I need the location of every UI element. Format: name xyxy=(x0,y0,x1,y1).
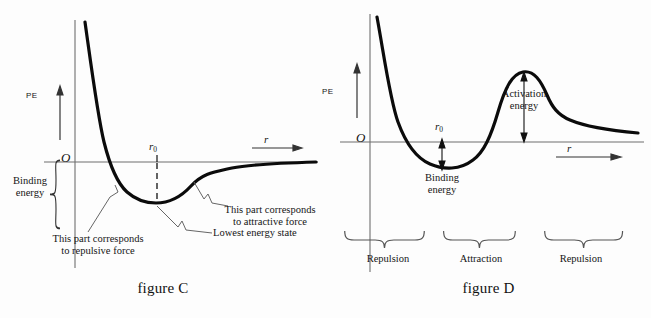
lowest-energy-leader xyxy=(157,206,212,233)
figure-c-panel: PE O r r0 Bindingenergy This part corres… xyxy=(0,0,326,318)
figure-d-r0-label: r0 xyxy=(435,120,443,134)
region-brace-repulsion-2 xyxy=(545,231,623,248)
r-axis-arrow xyxy=(252,145,302,151)
figure-c-r-axis-glyph: r xyxy=(264,133,268,145)
repulsive-callout-leader xyxy=(88,185,118,232)
figure-d-activation-energy-label: Activationenergy xyxy=(492,88,556,112)
figure-pair-stage: PE O r r0 Bindingenergy This part corres… xyxy=(0,0,651,318)
r-axis-arrow xyxy=(556,154,621,160)
figure-d-r0-subscript: 0 xyxy=(439,125,443,134)
figure-d-binding-energy-label: Bindingenergy xyxy=(410,172,474,196)
figure-d-r-axis-label: r xyxy=(567,142,571,154)
figure-c-caption: figure C xyxy=(0,280,326,297)
figure-c-lowest-energy-note: Lowest energy state xyxy=(213,227,297,239)
figure-d-r-axis-glyph: r xyxy=(567,142,571,154)
figure-c-r0-subscript: 0 xyxy=(153,145,157,154)
region-brace-repulsion-1 xyxy=(345,231,425,248)
pe-axis-arrow xyxy=(57,86,63,140)
figure-c-r0-label: r0 xyxy=(149,140,157,154)
figure-d-region-label-1: Attraction xyxy=(445,253,517,265)
figure-d-caption: figure D xyxy=(326,280,651,297)
potential-energy-curve xyxy=(85,22,316,203)
figure-c-r-axis-label: r xyxy=(264,133,268,145)
figure-c-binding-energy-label: Bindingenergy xyxy=(6,175,54,199)
figure-d-pe-label: PE xyxy=(322,88,334,97)
figure-c-attractive-force-note: This part correspondsto attractive force xyxy=(214,204,326,228)
attractive-callout-leader xyxy=(194,182,228,206)
figure-c-plot xyxy=(0,0,326,318)
region-brace-attraction xyxy=(444,231,516,248)
pe-axis-arrow xyxy=(354,64,360,118)
figure-d-origin-label: O xyxy=(356,131,365,146)
figure-d-panel: PE O r r0 Bindingenergy Activationenergy… xyxy=(326,0,651,318)
figure-c-pe-label: PE xyxy=(26,92,38,101)
figure-c-repulsive-force-note: This part correspondsto repulsive force xyxy=(40,233,156,257)
figure-d-plot xyxy=(326,0,651,318)
binding-energy-arrow xyxy=(439,139,445,170)
figure-d-region-label-2: Repulsion xyxy=(545,253,617,265)
figure-c-origin-label: O xyxy=(61,151,70,166)
figure-d-region-label-0: Repulsion xyxy=(352,253,424,265)
